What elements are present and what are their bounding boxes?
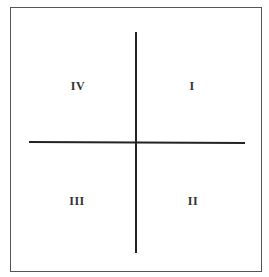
quadrant-label-top-left: IV [71,79,85,94]
quadrant-label-top-right: I [189,79,194,94]
quadrant-label-bottom-left: III [69,194,85,209]
quadrant-label-bottom-right: II [188,194,198,209]
